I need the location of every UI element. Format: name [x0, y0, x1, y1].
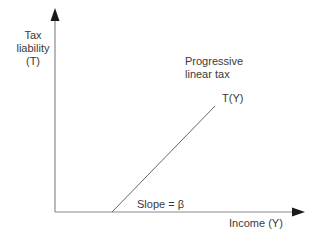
x-axis-arrowhead-icon [292, 208, 305, 217]
curve-label: T(Y) [222, 92, 243, 105]
y-axis-label-line-2: liability [14, 42, 52, 55]
title-annotation-line-2: linear tax [185, 68, 243, 81]
title-annotation: Progressive linear tax [185, 55, 243, 81]
y-axis-arrowhead-icon [51, 8, 60, 21]
y-axis-label-line-1: Tax [14, 29, 52, 42]
tax-function-line [112, 106, 215, 212]
x-axis-label: Income (Y) [229, 217, 283, 230]
title-annotation-line-1: Progressive [185, 55, 243, 68]
slope-annotation: Slope = β [137, 198, 184, 211]
y-axis-label-line-3: (T) [14, 55, 52, 68]
y-axis-label: Tax liability (T) [14, 29, 52, 68]
